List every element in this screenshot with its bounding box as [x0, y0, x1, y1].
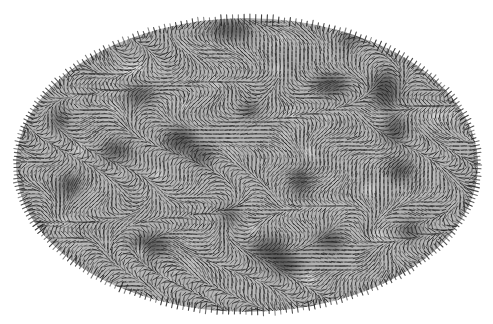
mollweide-sky-map — [0, 0, 493, 324]
sky-map-region — [0, 0, 493, 324]
